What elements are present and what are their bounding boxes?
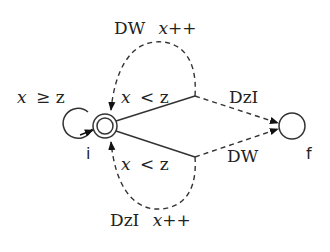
bottom-action-label: DzI x++ xyxy=(110,210,191,230)
self-loop-arc xyxy=(63,108,92,138)
upper-guard-label: x < z xyxy=(121,87,169,107)
top-action-label: DW x++ xyxy=(114,18,197,38)
self-loop-guard-label: x ≥ z xyxy=(17,87,65,107)
upper-to-f-label: DzI xyxy=(229,87,258,107)
state-f-label: f xyxy=(306,144,312,163)
self-loop-transition xyxy=(63,108,93,138)
state-i xyxy=(93,114,117,138)
lower-guard-label: x < z xyxy=(121,154,169,174)
lower-to-f-label: DW xyxy=(227,146,259,166)
arrowhead-icon xyxy=(80,130,93,135)
state-i-label: i xyxy=(86,144,90,163)
state-f xyxy=(279,113,305,139)
lower-loop-back-edge xyxy=(111,142,195,209)
state-machine-diagram: i f x ≥ z x < z x < z DW x++ DzI x++ DzI… xyxy=(0,0,330,252)
